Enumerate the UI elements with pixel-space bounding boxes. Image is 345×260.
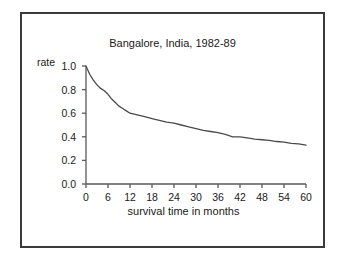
x-tick-label: 24: [164, 192, 184, 203]
y-tick-label: 0.2: [50, 155, 76, 166]
chart-title: Bangalore, India, 1982-89: [0, 38, 345, 49]
y-tick-label: 0.0: [50, 179, 76, 190]
survival-curve-line: [86, 66, 306, 145]
x-tick-label: 48: [252, 192, 272, 203]
x-tick-label: 18: [142, 192, 162, 203]
y-tick-label: 0.8: [50, 85, 76, 96]
x-tick-label: 60: [296, 192, 316, 203]
x-tick-label: 6: [98, 192, 118, 203]
y-tick-label: 1.0: [50, 61, 76, 72]
y-tick-label: 0.6: [50, 108, 76, 119]
x-axis-label: survival time in months: [0, 206, 345, 217]
y-tick-label: 0.4: [50, 132, 76, 143]
x-tick-label: 36: [208, 192, 228, 203]
axes: [82, 66, 306, 188]
chart-figure: Bangalore, India, 1982-89 rate survival …: [0, 0, 345, 260]
x-tick-label: 12: [120, 192, 140, 203]
x-tick-label: 0: [76, 192, 96, 203]
x-tick-label: 42: [230, 192, 250, 203]
x-tick-label: 30: [186, 192, 206, 203]
x-tick-label: 54: [274, 192, 294, 203]
